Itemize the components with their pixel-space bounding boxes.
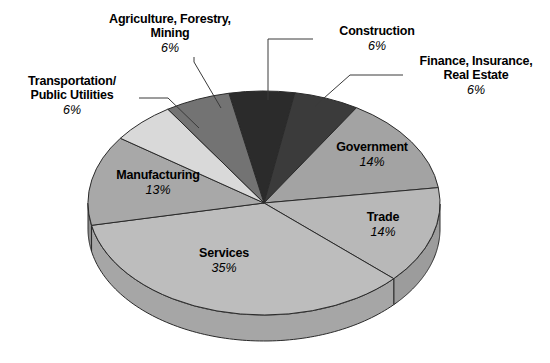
- slice-label-services-line1: Services: [178, 246, 270, 260]
- slice-label-finance: Finance, Insurance, Real Estate 6%: [404, 54, 548, 97]
- slice-label-government: Government 14%: [318, 140, 426, 169]
- slice-label-services: Services 35%: [178, 246, 270, 275]
- slice-label-government-line1: Government: [318, 140, 426, 154]
- slice-label-finance-line1: Finance, Insurance,: [404, 54, 548, 68]
- slice-percent-trade: 14%: [348, 225, 418, 239]
- slice-label-construction: Construction 6%: [318, 24, 436, 53]
- slice-label-trade-line1: Trade: [348, 210, 418, 224]
- slice-label-transportation: Transportation/ Public Utilities 6%: [4, 74, 140, 117]
- slice-label-finance-line2: Real Estate: [404, 68, 548, 82]
- slice-label-manufacturing-line1: Manufacturing: [100, 168, 216, 182]
- slice-label-manufacturing: Manufacturing 13%: [100, 168, 216, 197]
- slice-percent-finance: 6%: [404, 83, 548, 97]
- slice-percent-construction: 6%: [318, 39, 436, 53]
- slice-percent-government: 14%: [318, 155, 426, 169]
- pie-chart: Transportation/ Public Utilities 6% Agri…: [0, 0, 550, 363]
- pie-top-face: [88, 91, 440, 315]
- slice-label-agriculture: Agriculture, Forestry, Mining 6%: [92, 12, 248, 55]
- slice-label-agriculture-line1: Agriculture, Forestry,: [92, 12, 248, 26]
- slice-label-agriculture-line2: Mining: [92, 26, 248, 40]
- slice-label-transportation-line1: Transportation/: [4, 74, 140, 88]
- slice-label-construction-line1: Construction: [318, 24, 436, 38]
- slice-percent-agriculture: 6%: [92, 41, 248, 55]
- slice-label-transportation-line2: Public Utilities: [4, 88, 140, 102]
- slice-label-trade: Trade 14%: [348, 210, 418, 239]
- slice-percent-manufacturing: 13%: [100, 183, 216, 197]
- slice-percent-services: 35%: [178, 261, 270, 275]
- slice-percent-transportation: 6%: [4, 103, 140, 117]
